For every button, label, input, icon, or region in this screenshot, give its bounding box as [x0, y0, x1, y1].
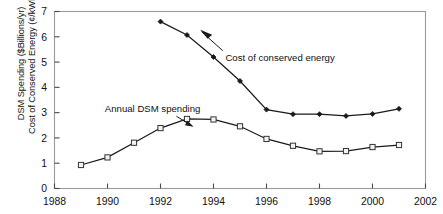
- x-tick-label: 1992: [149, 196, 172, 207]
- data-point-marker: [370, 144, 375, 149]
- data-point-marker: [264, 136, 269, 141]
- x-tick-label: 1990: [96, 196, 119, 207]
- data-point-marker: [290, 143, 295, 148]
- annotation-arrowhead: [200, 30, 212, 39]
- x-tick-label: 1998: [308, 196, 331, 207]
- data-point-marker: [237, 124, 242, 129]
- x-axis-ticks: 19881990199219941996199820002002: [43, 184, 437, 207]
- series-line: [161, 22, 400, 116]
- data-point-marker: [397, 106, 402, 111]
- data-point-marker: [158, 125, 163, 130]
- y-tick-label: 4: [41, 82, 47, 93]
- y-tick-label: 5: [41, 57, 47, 68]
- x-tick-label: 1996: [255, 196, 278, 207]
- data-point-marker: [317, 112, 322, 117]
- data-point-marker: [317, 149, 322, 154]
- x-tick-label: 1988: [43, 196, 66, 207]
- data-point-marker: [211, 117, 216, 122]
- data-point-marker: [343, 148, 348, 153]
- chart-plot: 01234567 1988199019921994199619982000200…: [0, 0, 443, 214]
- x-tick-label: 2000: [361, 196, 384, 207]
- data-point-marker: [344, 113, 349, 118]
- data-point-marker: [131, 140, 136, 145]
- data-point-marker: [105, 155, 110, 160]
- data-series-layer: [78, 19, 401, 167]
- series-annual-dsm-spending: [78, 116, 401, 167]
- annotation-layer: Cost of conserved energyAnnual DSM spend…: [105, 30, 335, 127]
- data-point-marker: [158, 19, 163, 24]
- data-point-marker: [78, 162, 83, 167]
- data-point-marker: [396, 142, 401, 147]
- data-point-marker: [184, 116, 189, 121]
- y-tick-label: 2: [41, 133, 47, 144]
- x-tick-label: 1994: [202, 196, 225, 207]
- x-tick-label: 2002: [414, 196, 437, 207]
- chart-container: DSM Spending ($Billions/yr) Cost of Cons…: [0, 0, 443, 214]
- data-point-marker: [291, 112, 296, 117]
- y-tick-label: 6: [41, 32, 47, 43]
- plot-frame: [55, 12, 426, 189]
- series-annotation-label: Annual DSM spending: [105, 103, 200, 114]
- y-tick-label: 3: [41, 107, 47, 118]
- y-tick-label: 0: [41, 183, 47, 194]
- series-annotation-label: Cost of conserved energy: [225, 52, 335, 63]
- y-tick-label: 7: [41, 6, 47, 17]
- data-point-marker: [370, 111, 375, 116]
- y-axis-ticks: 01234567: [41, 6, 59, 194]
- y-tick-label: 1: [41, 158, 47, 169]
